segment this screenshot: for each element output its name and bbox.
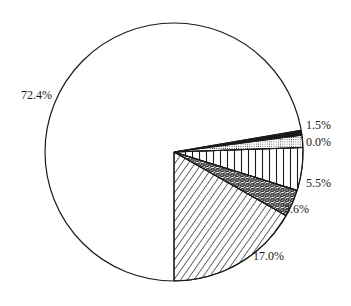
label-3-6: 3.6%	[284, 203, 309, 215]
label-1-5: 1.5%	[306, 119, 331, 131]
label-72-4: 72.4%	[21, 89, 52, 101]
pie-chart	[0, 0, 351, 306]
label-0-0: 0.0%	[306, 136, 331, 148]
label-5-5: 5.5%	[306, 177, 331, 189]
label-17-0: 17.0%	[253, 250, 284, 262]
pie-slices	[45, 23, 303, 281]
